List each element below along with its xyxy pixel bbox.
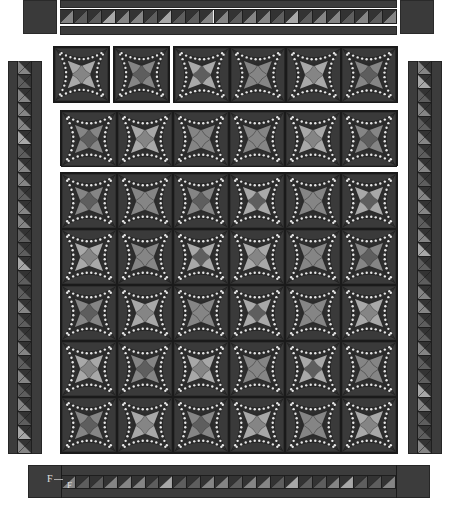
center-star-block xyxy=(173,285,229,341)
top-border-hst-row xyxy=(60,9,397,24)
left-border-hst xyxy=(18,370,31,384)
right-border-hst xyxy=(418,398,431,412)
right-border-hst xyxy=(418,384,431,398)
top-border-hst xyxy=(313,10,327,23)
right-border-hst xyxy=(418,145,431,159)
bottom-border-hst xyxy=(382,476,396,488)
left-border-hst xyxy=(18,61,31,75)
right-border-hst xyxy=(418,342,431,356)
left-border-hst xyxy=(18,201,31,215)
center-star-block xyxy=(117,341,173,397)
center-star-block xyxy=(61,285,117,341)
quilt-center-grid xyxy=(60,172,398,454)
bottom-border-hst xyxy=(173,476,187,488)
left-border-hst xyxy=(18,328,31,342)
bottom-border-hst xyxy=(354,476,368,488)
left-border-hst xyxy=(18,384,31,398)
center-star-block xyxy=(61,341,117,397)
right-border-hst xyxy=(418,271,431,285)
center-star-block xyxy=(117,229,173,285)
label-f-leader-line xyxy=(54,479,63,480)
right-border-hst xyxy=(418,117,431,131)
left-border-hst xyxy=(18,187,31,201)
center-star-block xyxy=(341,173,397,229)
top-border-hst xyxy=(130,10,144,23)
center-star-block xyxy=(341,229,397,285)
row2-star-block xyxy=(341,111,397,167)
right-border-hst xyxy=(418,89,431,103)
bottom-border-hst xyxy=(146,476,160,488)
right-border-hst xyxy=(418,426,431,440)
top-border-hst xyxy=(74,10,88,23)
row1-star-block xyxy=(54,47,109,102)
top-border-hst xyxy=(88,10,102,23)
left-border-hst xyxy=(18,342,31,356)
right-border-hst xyxy=(418,103,431,117)
top-border-inner-strip xyxy=(60,26,397,35)
label-f-outer: F xyxy=(47,474,53,484)
left-border-hst xyxy=(18,440,31,454)
bottom-border-hst xyxy=(327,476,341,488)
top-border-hst xyxy=(271,10,285,23)
top-border-hst xyxy=(186,10,200,23)
row1-joined-star-block xyxy=(286,47,342,103)
right-border-hst xyxy=(418,356,431,370)
row2-joined-blocks xyxy=(60,110,398,166)
left-border-hst xyxy=(18,75,31,89)
bottom-border-hst xyxy=(104,476,118,488)
bottom-border-hst xyxy=(118,476,132,488)
center-star-block xyxy=(61,173,117,229)
top-border-hst xyxy=(229,10,243,23)
row2-star-block xyxy=(285,111,341,167)
center-star-block xyxy=(229,341,285,397)
right-border-hst xyxy=(418,243,431,257)
row1-joined-blocks xyxy=(173,46,398,103)
left-border-hst xyxy=(18,103,31,117)
row2-star-block xyxy=(61,111,117,167)
left-border-hst xyxy=(18,159,31,173)
right-border-hst xyxy=(418,215,431,229)
bottom-border-hst xyxy=(299,476,313,488)
left-border-hst xyxy=(18,131,31,145)
row1-block-2 xyxy=(113,46,170,103)
bottom-border-hst xyxy=(132,476,146,488)
center-star-block xyxy=(117,173,173,229)
bottom-border-hst xyxy=(257,476,271,488)
left-border-hst xyxy=(18,229,31,243)
right-border-hst xyxy=(418,229,431,243)
center-star-block xyxy=(285,341,341,397)
right-border-hst xyxy=(418,187,431,201)
row1-joined-star-block xyxy=(341,47,397,103)
top-border-hst xyxy=(369,10,383,23)
center-star-block xyxy=(285,173,341,229)
center-star-block xyxy=(341,285,397,341)
bottom-border-hst xyxy=(368,476,382,488)
top-border-hst xyxy=(144,10,158,23)
bottom-border-hst xyxy=(159,476,173,488)
top-border-hst xyxy=(327,10,341,23)
corner-square-top-right xyxy=(400,0,434,34)
center-star-block xyxy=(173,341,229,397)
left-border-hst xyxy=(18,257,31,271)
row1-block-1 xyxy=(53,46,110,103)
right-border-hst xyxy=(418,286,431,300)
top-border-hst xyxy=(243,10,257,23)
left-border-hst xyxy=(18,314,31,328)
bottom-border-hst xyxy=(201,476,215,488)
left-border-hst xyxy=(18,215,31,229)
label-f-inner: F xyxy=(67,480,72,490)
top-border-hst xyxy=(172,10,186,23)
bottom-border-hst xyxy=(90,476,104,488)
top-border-hst xyxy=(257,10,271,23)
left-border-hst xyxy=(18,300,31,314)
right-border-hst xyxy=(418,75,431,89)
center-star-block xyxy=(229,229,285,285)
left-border-hst xyxy=(18,173,31,187)
center-star-block xyxy=(173,397,229,453)
left-border-hst xyxy=(18,398,31,412)
left-border-hst xyxy=(18,356,31,370)
right-border-hst xyxy=(418,300,431,314)
right-border-hst-column xyxy=(417,61,432,454)
right-border-hst xyxy=(418,257,431,271)
bottom-border-right-segment-divider xyxy=(396,465,397,498)
